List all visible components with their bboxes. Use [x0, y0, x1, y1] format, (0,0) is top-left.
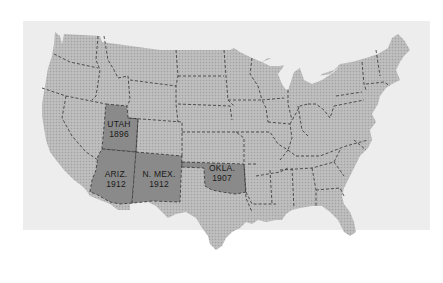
label-arizona-name: ARIZ. [100, 169, 132, 179]
label-oklahoma-name: OKLA. [204, 163, 240, 173]
label-utah-year: 1896 [104, 129, 134, 139]
label-arizona-year: 1912 [100, 179, 132, 189]
label-new-mexico: N. MEX. 1912 [139, 169, 179, 189]
us-map [0, 0, 443, 283]
label-new-mexico-year: 1912 [139, 179, 179, 189]
label-new-mexico-name: N. MEX. [139, 169, 179, 179]
label-arizona: ARIZ. 1912 [100, 169, 132, 189]
label-utah-name: UTAH [104, 119, 134, 129]
label-utah: UTAH 1896 [104, 119, 134, 139]
label-oklahoma: OKLA. 1907 [204, 163, 240, 183]
label-oklahoma-year: 1907 [204, 173, 240, 183]
